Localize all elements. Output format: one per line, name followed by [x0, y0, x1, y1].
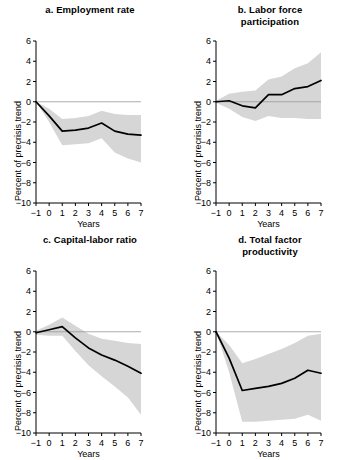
x-axis-label: Years	[29, 219, 149, 229]
confidence-band	[36, 318, 141, 415]
x-tick-label: 0	[47, 438, 52, 448]
y-tick-label: 4	[26, 286, 31, 296]
x-tick-label: 6	[305, 208, 310, 218]
y-tick-label: 4	[206, 56, 211, 66]
y-tick-label: 0	[206, 97, 211, 107]
plot-area-b: 6420−2−4−6−8−10−101234567Percent of prec…	[180, 0, 360, 230]
x-tick-label: 1	[240, 208, 245, 218]
y-tick-label: 2	[206, 77, 211, 87]
x-tick-label: 0	[227, 208, 232, 218]
x-axis-label: Years	[209, 219, 329, 229]
y-tick-label: 0	[26, 327, 31, 337]
plot-svg: 6420−2−4−6−8−10−101234567	[180, 0, 360, 230]
x-tick-label: 3	[266, 438, 271, 448]
x-axis-label: Years	[29, 449, 149, 459]
x-tick-label: 3	[266, 208, 271, 218]
plot-svg: 6420−2−4−6−8−10−101234567	[0, 0, 180, 230]
y-tick-label: 6	[26, 36, 31, 46]
x-tick-label: 5	[292, 438, 297, 448]
x-tick-label: −1	[211, 438, 221, 448]
plot-area-d: 6420−2−4−6−8−10−101234567Percent of prec…	[180, 230, 360, 460]
x-tick-label: 0	[47, 208, 52, 218]
x-tick-label: 2	[73, 208, 78, 218]
x-tick-label: 0	[227, 438, 232, 448]
x-tick-label: 7	[138, 208, 143, 218]
y-axis-label: Percent of precrisis trend	[13, 331, 23, 431]
panel-capital-labor-ratio: c. Capital-labor ratio 6420−2−4−6−8−10−1…	[0, 230, 180, 460]
x-tick-label: 1	[240, 438, 245, 448]
y-tick-label: 2	[26, 77, 31, 87]
y-axis-label: Percent of precrisis trend	[193, 331, 203, 431]
x-tick-label: 4	[279, 438, 284, 448]
plot-svg: 6420−2−4−6−8−10−101234567	[180, 230, 360, 460]
x-tick-label: 4	[99, 208, 104, 218]
plot-area-c: 6420−2−4−6−8−10−101234567Percent of prec…	[0, 230, 180, 460]
x-tick-label: 7	[318, 438, 323, 448]
plot-area-a: 6420−2−4−6−8−10−101234567Percent of prec…	[0, 0, 180, 230]
confidence-band	[36, 102, 141, 163]
y-tick-label: 2	[26, 307, 31, 317]
panel-total-factor-productivity: d. Total factorproductivity 6420−2−4−6−8…	[180, 230, 360, 460]
x-tick-label: 5	[112, 438, 117, 448]
confidence-band	[216, 332, 321, 422]
plot-svg: 6420−2−4−6−8−10−101234567	[0, 230, 180, 460]
y-tick-label: 0	[26, 97, 31, 107]
panel-employment-rate: a. Employment rate 6420−2−4−6−8−10−10123…	[0, 0, 180, 230]
y-axis-label: Percent of precrisis trend	[193, 101, 203, 201]
x-tick-label: 7	[318, 208, 323, 218]
x-tick-label: 3	[86, 208, 91, 218]
y-tick-label: 6	[26, 266, 31, 276]
x-tick-label: 1	[60, 208, 65, 218]
x-tick-label: 3	[86, 438, 91, 448]
x-tick-label: 6	[125, 208, 130, 218]
x-tick-label: 5	[112, 208, 117, 218]
y-tick-label: 4	[206, 286, 211, 296]
x-tick-label: 5	[292, 208, 297, 218]
y-tick-label: 2	[206, 307, 211, 317]
x-tick-label: 2	[253, 438, 258, 448]
x-tick-label: −1	[211, 208, 221, 218]
x-tick-label: 4	[279, 208, 284, 218]
x-tick-label: 7	[138, 438, 143, 448]
figure-multipanel-chart: a. Employment rate 6420−2−4−6−8−10−10123…	[0, 0, 361, 460]
y-tick-label: 4	[26, 56, 31, 66]
x-tick-label: −1	[31, 438, 41, 448]
y-axis-label: Percent of precrisis trend	[13, 101, 23, 201]
x-tick-label: −1	[31, 208, 41, 218]
x-tick-label: 6	[305, 438, 310, 448]
x-tick-label: 2	[253, 208, 258, 218]
y-tick-label: 0	[206, 327, 211, 337]
x-tick-label: 2	[73, 438, 78, 448]
x-tick-label: 6	[125, 438, 130, 448]
x-tick-label: 1	[60, 438, 65, 448]
panel-labor-force-participation: b. Labor forceparticipation 6420−2−4−6−8…	[180, 0, 360, 230]
x-tick-label: 4	[99, 438, 104, 448]
y-tick-label: 6	[206, 36, 211, 46]
x-axis-label: Years	[209, 449, 329, 459]
y-tick-label: 6	[206, 266, 211, 276]
